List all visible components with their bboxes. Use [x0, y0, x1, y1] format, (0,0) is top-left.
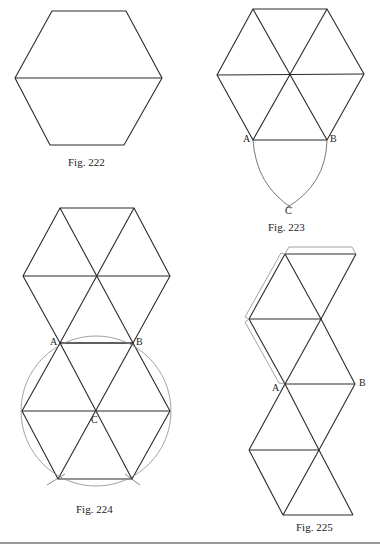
fig-224-caption: Fig. 224	[76, 503, 113, 515]
fig-222-caption: Fig. 222	[68, 156, 105, 168]
fig-224-label-a: A	[50, 336, 57, 347]
fig-223-arcs	[253, 140, 327, 208]
fig-223-label-c: C	[285, 205, 292, 216]
fig-225-caption: Fig. 225	[296, 521, 333, 533]
fig-225-label-b: B	[359, 377, 366, 388]
fig-223-hexagon	[217, 9, 364, 140]
fig-223-label-b: B	[330, 133, 337, 144]
figures-canvas	[0, 0, 380, 547]
fig-224-label-b: B	[136, 336, 143, 347]
fig-225-label-a: A	[272, 382, 279, 393]
fig-223-label-a: A	[243, 133, 250, 144]
fig-225-flaps	[245, 247, 356, 384]
fig-224-lower-hexagon	[22, 343, 170, 479]
fig-223-caption: Fig. 223	[268, 221, 305, 233]
fig-224-upper-hexagon	[23, 208, 170, 343]
fig-222-hexagon	[15, 11, 162, 145]
fig-225-net	[249, 254, 356, 515]
fig-224-label-c: C	[91, 414, 98, 425]
page-bottom-rule	[0, 542, 380, 544]
